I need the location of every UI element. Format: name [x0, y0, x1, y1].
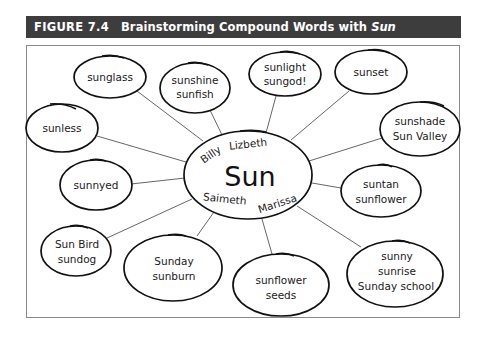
label-sunless: sunless	[42, 122, 81, 134]
label-sunbird-1: Sun Bird	[55, 238, 99, 250]
connector-sunbird	[107, 199, 192, 238]
label-sunny-2: sunrise	[378, 265, 416, 277]
connector-sunless	[97, 136, 186, 162]
connector-sunday	[197, 212, 214, 236]
label-sunlight-1: sunlight	[264, 61, 306, 73]
label-sunshade-1: sunshade	[395, 115, 445, 127]
label-sunflower-2: seeds	[266, 289, 297, 301]
label-sunny-1: sunny	[381, 250, 413, 262]
label-sunbird-2: sundog	[58, 253, 97, 265]
label-sunny-3: Sunday school	[358, 280, 434, 292]
label-sunflower-1: sunflower	[255, 274, 307, 286]
bubble-sunshade	[380, 102, 460, 156]
label-sunshine-1: sunshine	[172, 74, 219, 86]
label-sunshine-2: sunfish	[176, 88, 214, 100]
label-suntan-1: suntan	[363, 178, 399, 190]
connector-sunny	[297, 206, 361, 247]
label-sunnyed: sunnyed	[74, 179, 119, 191]
connector-suntan	[312, 183, 341, 188]
label-sunlight-2: sungod!	[264, 75, 307, 87]
bubble-sunbird	[41, 226, 111, 276]
bubble-sunday	[124, 235, 222, 301]
connector-sunlight	[266, 96, 276, 133]
label-sunday-2: sunburn	[153, 270, 196, 282]
label-suntan-2: sunflower	[355, 193, 407, 205]
brainstorm-web: sunglass sunshine sunfish sunlight sungo…	[0, 0, 482, 337]
label-sunday-1: Sunday	[154, 255, 193, 267]
bubble-sunlight	[249, 52, 321, 96]
bubble-suntan	[341, 165, 421, 217]
connector-sunnyed	[131, 178, 185, 184]
connector-sunflower	[262, 219, 272, 254]
label-sunglass: sunglass	[87, 71, 133, 83]
center-word: Sun	[224, 161, 275, 192]
connector-sunshine	[210, 110, 222, 135]
connector-sunshade	[309, 138, 382, 161]
label-sunset: sunset	[354, 66, 389, 78]
label-sunshade-2: Sun Valley	[393, 130, 448, 142]
connector-sunset	[291, 91, 349, 140]
